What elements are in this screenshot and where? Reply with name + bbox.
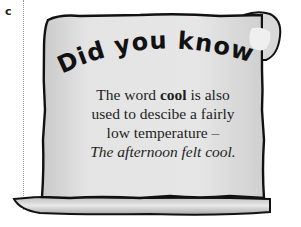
example-sentence: The afternoon felt cool. bbox=[56, 142, 270, 161]
body-line-3: low temperature – bbox=[56, 123, 270, 142]
body-line-2: used to descibe a fairly bbox=[56, 104, 270, 123]
body-text: The word cool is also used to descibe a … bbox=[56, 85, 270, 161]
body-line-1: The word cool is also bbox=[56, 85, 270, 104]
svg-text:Did you know?: Did you know? bbox=[0, 0, 258, 79]
keyword: cool bbox=[160, 86, 187, 103]
